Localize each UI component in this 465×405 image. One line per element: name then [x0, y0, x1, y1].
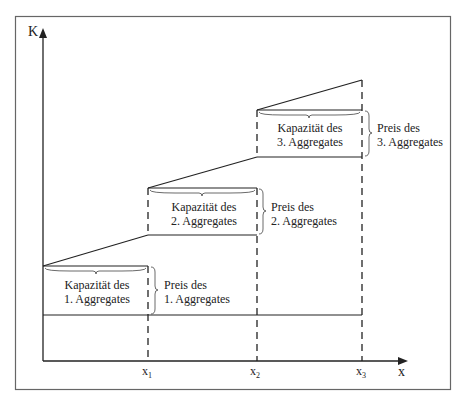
block2-capacity-brace [150, 190, 255, 196]
block2-price-line2: 2. Aggregates [271, 214, 337, 228]
block3-price-line1: Preis des [377, 121, 443, 135]
x2-tick-label: x2 [250, 364, 260, 383]
block1-capacity-line2: 1. Aggregates [50, 292, 144, 306]
block1-price-line2: 1. Aggregates [164, 292, 230, 306]
block1-capacity-brace [45, 268, 146, 274]
block3-capacity-brace [259, 112, 360, 118]
block1-capacity-line1: Kapazität des [50, 278, 144, 292]
y-axis-arrow-icon [39, 28, 47, 38]
block2-capacity-label: Kapazität des 2. Aggregates [155, 200, 253, 228]
block2-slope [148, 157, 257, 188]
block3-capacity-line2: 3. Aggregates [262, 135, 358, 149]
x3-tick-sub: 3 [362, 371, 366, 380]
block3-price-line2: 3. Aggregates [377, 135, 443, 149]
x-axis-label: x [398, 365, 405, 379]
y-axis-label: K [28, 25, 38, 39]
block1-price-label: Preis des 1. Aggregates [164, 278, 230, 306]
block1-price-brace [151, 267, 158, 314]
block2-price-brace [259, 189, 266, 234]
block2-price-label: Preis des 2. Aggregates [271, 200, 337, 228]
block3-price-label: Preis des 3. Aggregates [377, 121, 443, 149]
block1-price-line1: Preis des [164, 278, 230, 292]
block3-slope [257, 80, 362, 110]
block3-capacity-label: Kapazität des 3. Aggregates [262, 121, 358, 149]
block1-capacity-label: Kapazität des 1. Aggregates [50, 278, 144, 306]
x1-tick-label: x1 [142, 364, 152, 383]
block2-price-line1: Preis des [271, 200, 337, 214]
x2-tick-sub: 2 [256, 371, 260, 380]
block3-capacity-line1: Kapazität des [262, 121, 358, 135]
block2-capacity-line1: Kapazität des [155, 200, 253, 214]
block3-price-brace [365, 111, 372, 156]
x3-tick-label: x3 [356, 364, 366, 383]
block1-slope [43, 235, 148, 266]
block2-capacity-line2: 2. Aggregates [155, 214, 253, 228]
x1-tick-sub: 1 [148, 371, 152, 380]
